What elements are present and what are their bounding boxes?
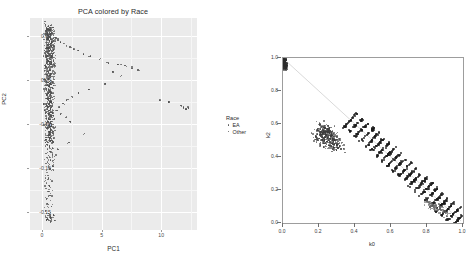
data-point	[450, 215, 452, 217]
data-point	[53, 79, 54, 80]
data-point	[47, 56, 48, 57]
data-point	[54, 83, 55, 84]
data-point	[319, 123, 321, 125]
data-point	[52, 157, 53, 158]
data-point	[343, 144, 345, 146]
x-tick-label: 1.0	[451, 228, 472, 234]
left-x-axis-label: PC1	[30, 245, 197, 252]
data-point	[45, 139, 46, 140]
data-point	[47, 52, 48, 53]
data-point	[46, 128, 47, 129]
data-point	[51, 206, 52, 207]
data-point	[354, 124, 356, 126]
data-point	[317, 133, 319, 135]
data-point	[53, 135, 54, 136]
data-point	[343, 148, 345, 150]
y-tick-label: 0.0	[256, 219, 278, 225]
data-point	[50, 140, 51, 141]
data-point	[328, 134, 330, 136]
data-point	[46, 203, 47, 204]
data-point	[48, 163, 49, 164]
data-point	[57, 38, 58, 39]
y-tick-mark	[277, 123, 281, 124]
data-point	[70, 121, 71, 122]
y-tick-mark	[27, 168, 29, 169]
data-point	[404, 159, 406, 161]
data-point	[319, 145, 321, 147]
data-point	[413, 179, 415, 181]
y-tick-label: 0.2	[256, 186, 278, 192]
x-tick-mark	[462, 223, 463, 227]
data-point	[53, 59, 54, 60]
x-tick-mark	[42, 230, 43, 232]
data-point	[45, 175, 46, 176]
x-tick-mark	[426, 223, 427, 227]
data-point	[60, 42, 61, 43]
data-point	[341, 143, 343, 145]
data-point	[88, 89, 89, 90]
data-point	[52, 124, 53, 125]
data-point	[463, 214, 464, 216]
data-point	[50, 157, 51, 158]
grid-line-minor	[191, 18, 192, 230]
data-point	[423, 191, 425, 193]
right-y-axis-label: k2	[265, 120, 271, 150]
data-point	[66, 46, 67, 47]
x-tick-label: 5	[92, 232, 112, 238]
y-tick-label: 0.8	[256, 87, 278, 93]
grid-line-horizontal	[30, 80, 197, 81]
data-point	[402, 160, 404, 162]
legend-dot	[228, 124, 230, 126]
data-point	[47, 152, 48, 153]
data-point	[55, 40, 56, 41]
data-point	[51, 24, 52, 25]
data-point	[131, 68, 133, 70]
data-point	[45, 24, 46, 25]
data-point	[67, 99, 68, 100]
y-tick-mark	[27, 36, 29, 37]
x-tick-mark	[390, 223, 391, 227]
data-point	[55, 126, 56, 127]
data-point	[61, 113, 62, 114]
data-point	[403, 170, 405, 172]
data-point	[52, 161, 53, 162]
data-point	[45, 145, 46, 146]
data-point	[51, 149, 52, 150]
data-point	[183, 107, 184, 108]
data-point	[361, 130, 363, 132]
y-tick-mark	[277, 156, 281, 157]
grid-line-horizontal	[30, 124, 197, 125]
data-point	[120, 76, 121, 77]
data-point	[44, 53, 45, 54]
data-point	[74, 48, 75, 49]
x-tick-label: 0.0	[271, 228, 293, 234]
data-point	[53, 217, 54, 218]
data-point	[54, 98, 55, 99]
data-point	[45, 177, 46, 178]
data-point	[428, 201, 430, 203]
data-point	[43, 39, 44, 40]
data-point	[54, 43, 55, 44]
grid-line-minor	[30, 190, 197, 191]
data-point	[52, 147, 53, 148]
data-point	[463, 223, 464, 224]
data-point	[50, 200, 51, 201]
data-point	[139, 70, 140, 71]
grid-line-minor	[30, 146, 197, 147]
data-point	[48, 204, 50, 206]
data-point	[46, 182, 47, 183]
data-point	[320, 140, 322, 142]
data-point	[67, 143, 68, 144]
data-point	[371, 148, 373, 150]
data-point	[45, 180, 46, 181]
legend-dot	[228, 131, 230, 133]
right-plot-panel	[282, 57, 464, 224]
data-point	[330, 131, 332, 133]
data-point	[49, 98, 50, 99]
data-point	[46, 85, 47, 86]
data-point	[316, 141, 318, 143]
data-point	[330, 127, 332, 129]
x-tick-label: 0.4	[343, 228, 365, 234]
data-point	[394, 159, 396, 161]
grid-line-minor	[30, 102, 197, 103]
